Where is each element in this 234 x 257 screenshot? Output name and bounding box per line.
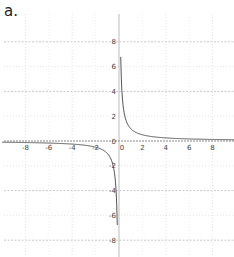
y-tick-label: 2 xyxy=(112,113,116,121)
y-tick-label: 0 xyxy=(112,138,116,146)
x-tick-label: -6 xyxy=(45,144,53,152)
curve-left-branch xyxy=(2,142,117,225)
y-tick-label: -6 xyxy=(109,212,117,220)
plot-area: -8-6-4-202468-8-6-4-202468 xyxy=(0,0,234,257)
y-tick-label: 4 xyxy=(112,88,117,96)
x-tick-label: 0 xyxy=(120,144,124,152)
x-tick-label: -8 xyxy=(22,144,29,152)
curve-right-branch xyxy=(121,57,234,140)
y-tick-label: -8 xyxy=(109,237,116,245)
x-tick-label: -4 xyxy=(69,144,77,152)
x-tick-label: 8 xyxy=(210,144,214,152)
x-tick-label: 6 xyxy=(187,144,192,152)
y-tick-label: 6 xyxy=(112,63,117,71)
y-tick-label: 8 xyxy=(112,38,116,46)
x-tick-label: 2 xyxy=(140,144,144,152)
x-tick-label: 4 xyxy=(164,144,169,152)
